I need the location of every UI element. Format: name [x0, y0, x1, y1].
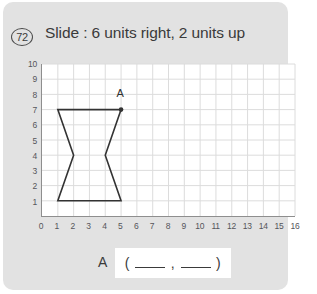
answer-row: A ( , ) — [3, 248, 288, 282]
y-axis-tick-5: 5 — [21, 136, 37, 146]
answer-input-box[interactable]: ( , ) — [115, 248, 231, 278]
answer-blank-x[interactable] — [135, 258, 165, 268]
x-axis-tick-7: 7 — [144, 221, 160, 231]
x-axis-tick-15: 15 — [271, 221, 287, 231]
x-axis-tick-11: 11 — [208, 221, 224, 231]
comma-separator: , — [171, 255, 175, 271]
y-axis-tick-10: 10 — [21, 59, 37, 69]
y-axis-tick-1: 1 — [21, 197, 37, 207]
question-number-badge: 72 — [11, 28, 33, 46]
open-paren: ( — [125, 255, 130, 271]
y-axis-tick-2: 2 — [21, 181, 37, 191]
x-axis-tick-3: 3 — [81, 221, 97, 231]
close-paren: ) — [216, 255, 221, 271]
x-axis-tick-16: 16 — [287, 221, 303, 231]
x-axis-tick-0: 0 — [33, 221, 49, 231]
answer-label: A — [98, 254, 107, 270]
y-axis-tick-4: 4 — [21, 151, 37, 161]
answer-coordinate-expression[interactable]: ( , ) — [115, 248, 231, 278]
x-axis-tick-10: 10 — [192, 221, 208, 231]
x-axis-tick-1: 1 — [49, 221, 65, 231]
question-header: 72 Slide : 6 units right, 2 units up — [3, 8, 288, 50]
x-axis-tick-9: 9 — [176, 221, 192, 231]
plotted-shape — [42, 64, 295, 216]
y-axis-tick-6: 6 — [21, 120, 37, 130]
x-axis-tick-4: 4 — [97, 221, 113, 231]
x-axis-tick-13: 13 — [239, 221, 255, 231]
y-axis-tick-8: 8 — [21, 90, 37, 100]
x-axis-tick-12: 12 — [224, 221, 240, 231]
x-axis-tick-14: 14 — [255, 221, 271, 231]
y-axis-tick-9: 9 — [21, 74, 37, 84]
coordinate-grid-plot[interactable] — [41, 64, 295, 217]
y-axis-tick-7: 7 — [21, 105, 37, 115]
x-axis-tick-8: 8 — [160, 221, 176, 231]
y-axis-tick-3: 3 — [21, 166, 37, 176]
point-label-a: A — [116, 87, 123, 99]
page-title: Slide : 6 units right, 2 units up — [45, 24, 245, 42]
x-axis-tick-5: 5 — [112, 221, 128, 231]
worksheet-card: 72 Slide : 6 units right, 2 units up A A… — [3, 2, 288, 290]
x-axis-tick-6: 6 — [128, 221, 144, 231]
answer-blank-y[interactable] — [181, 258, 211, 268]
x-axis-tick-2: 2 — [65, 221, 81, 231]
